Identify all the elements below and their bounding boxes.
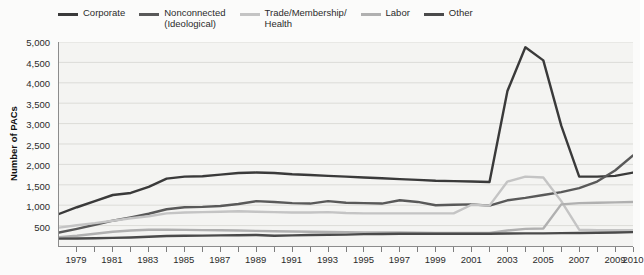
legend-item-nonconnected: Nonconnected (Ideological) bbox=[139, 8, 225, 29]
series-line bbox=[59, 155, 633, 232]
legend-item-other: Other bbox=[424, 8, 473, 19]
legend-swatch-corporate bbox=[58, 13, 78, 16]
x-tick-mark bbox=[615, 247, 616, 252]
x-tick-label: 1987 bbox=[209, 254, 230, 265]
y-axis: Number of PACs 5,0004,5004,0003,5003,000… bbox=[0, 42, 54, 247]
chart-legend: Corporate Nonconnected (Ideological) Tra… bbox=[58, 8, 633, 36]
legend-label-other: Other bbox=[449, 8, 473, 19]
legend-label-labor: Labor bbox=[386, 8, 410, 19]
x-tick-mark bbox=[507, 247, 508, 252]
legend-swatch-trade-membership-health bbox=[240, 13, 260, 16]
x-tick-mark bbox=[94, 247, 95, 252]
x-tick-label: 1983 bbox=[137, 254, 158, 265]
x-tick-mark bbox=[417, 247, 418, 252]
y-tick-label: 3,500 bbox=[26, 98, 50, 109]
x-tick-mark bbox=[381, 247, 382, 252]
x-tick-mark bbox=[292, 247, 293, 252]
y-tick-label: 5,000 bbox=[26, 37, 50, 48]
legend-label-corporate: Corporate bbox=[83, 8, 125, 19]
x-tick-label: 1989 bbox=[245, 254, 266, 265]
x-tick-label: 1981 bbox=[101, 254, 122, 265]
x-tick-label: 1999 bbox=[425, 254, 446, 265]
x-tick-mark bbox=[363, 247, 364, 252]
x-tick-mark bbox=[579, 247, 580, 252]
legend-swatch-other bbox=[424, 13, 444, 16]
y-axis-title: Number of PACs bbox=[8, 94, 19, 194]
x-tick-mark bbox=[346, 247, 347, 252]
x-tick-mark bbox=[202, 247, 203, 252]
x-tick-label: 2001 bbox=[461, 254, 482, 265]
y-tick-label: 4,000 bbox=[26, 78, 50, 89]
x-tick-mark bbox=[166, 247, 167, 252]
plot-svg bbox=[59, 42, 633, 246]
y-tick-label: 3,000 bbox=[26, 119, 50, 130]
series-line bbox=[59, 47, 633, 214]
x-tick-mark bbox=[274, 247, 275, 252]
legend-swatch-nonconnected bbox=[139, 13, 159, 16]
x-tick-label: 1993 bbox=[317, 254, 338, 265]
x-tick-mark bbox=[561, 247, 562, 252]
x-tick-label: 2003 bbox=[497, 254, 518, 265]
x-tick-mark bbox=[184, 247, 185, 252]
x-tick-mark bbox=[543, 247, 544, 252]
x-tick-mark bbox=[310, 247, 311, 252]
x-tick-mark bbox=[220, 247, 221, 252]
x-tick-mark bbox=[435, 247, 436, 252]
legend-item-corporate: Corporate bbox=[58, 8, 125, 19]
x-tick-mark bbox=[256, 247, 257, 252]
x-tick-mark bbox=[525, 247, 526, 252]
legend-item-trade-membership-health: Trade/Membership/ Health bbox=[240, 8, 347, 29]
x-tick-mark bbox=[328, 247, 329, 252]
x-tick-label: 2007 bbox=[569, 254, 590, 265]
y-tick-label: 1,000 bbox=[26, 201, 50, 212]
legend-label-trade-membership-health: Trade/Membership/ Health bbox=[265, 8, 347, 29]
y-tick-label: 1,500 bbox=[26, 180, 50, 191]
x-tick-label: 1995 bbox=[353, 254, 374, 265]
x-tick-mark bbox=[148, 247, 149, 252]
x-tick-mark bbox=[453, 247, 454, 252]
x-tick-mark bbox=[489, 247, 490, 252]
x-tick-mark bbox=[633, 247, 634, 252]
legend-label-nonconnected: Nonconnected (Ideological) bbox=[164, 8, 225, 29]
legend-swatch-labor bbox=[361, 13, 381, 16]
x-tick-mark bbox=[399, 247, 400, 252]
legend-item-labor: Labor bbox=[361, 8, 410, 19]
x-tick-mark bbox=[76, 247, 77, 252]
y-tick-label: 2,500 bbox=[26, 139, 50, 150]
x-tick-mark bbox=[471, 247, 472, 252]
plot-area bbox=[58, 42, 633, 247]
x-tick-label: 2010 bbox=[622, 254, 643, 265]
y-tick-label: 2,000 bbox=[26, 160, 50, 171]
x-tick-mark bbox=[130, 247, 131, 252]
x-tick-mark bbox=[597, 247, 598, 252]
x-tick-label: 2005 bbox=[533, 254, 554, 265]
x-tick-label: 1985 bbox=[173, 254, 194, 265]
x-tick-label: 1991 bbox=[281, 254, 302, 265]
series-line bbox=[59, 202, 633, 237]
x-tick-mark bbox=[112, 247, 113, 252]
x-tick-label: 1997 bbox=[389, 254, 410, 265]
x-tick-label: 1979 bbox=[65, 254, 86, 265]
x-axis: 1979198119831985198719891991199319951997… bbox=[58, 247, 633, 271]
x-tick-mark bbox=[238, 247, 239, 252]
y-tick-label: 4,500 bbox=[26, 57, 50, 68]
y-tick-label: 500 bbox=[34, 221, 50, 232]
